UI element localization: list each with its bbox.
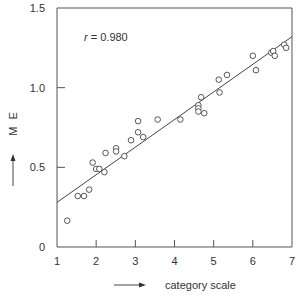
y-axis-label-group: M E bbox=[7, 110, 19, 186]
data-point bbox=[198, 94, 204, 100]
x-tick-label: 6 bbox=[250, 255, 256, 267]
data-point bbox=[135, 118, 141, 124]
data-point bbox=[113, 149, 119, 155]
x-tick-label: 2 bbox=[93, 255, 99, 267]
data-point bbox=[283, 45, 289, 51]
data-point bbox=[250, 53, 256, 59]
data-point bbox=[155, 117, 161, 123]
x-tick-label: 1 bbox=[54, 255, 60, 267]
data-point bbox=[135, 129, 141, 135]
data-point bbox=[178, 117, 184, 123]
right-arrow-icon bbox=[139, 283, 146, 288]
scatter-chart: 1234567 00.51.01.5 r = 0.980 M E categor… bbox=[0, 0, 304, 300]
x-axis-label-group: category scale bbox=[114, 279, 236, 291]
y-axis-label: M E bbox=[7, 110, 19, 136]
data-points bbox=[64, 42, 289, 224]
plot-frame bbox=[57, 8, 292, 247]
data-point bbox=[90, 160, 96, 166]
data-point bbox=[201, 110, 207, 116]
data-point bbox=[140, 134, 146, 140]
x-axis-label: category scale bbox=[165, 279, 236, 291]
up-arrow-icon bbox=[11, 154, 16, 161]
data-point bbox=[224, 72, 230, 78]
y-tick-label: 1.0 bbox=[30, 82, 45, 94]
r-value-text: = 0.980 bbox=[88, 31, 128, 43]
x-tick-label: 3 bbox=[132, 255, 138, 267]
data-point bbox=[75, 193, 81, 199]
data-point bbox=[102, 169, 108, 175]
data-point bbox=[217, 90, 223, 96]
data-point bbox=[272, 53, 278, 59]
data-point bbox=[196, 109, 202, 115]
x-tick-label: 5 bbox=[211, 255, 217, 267]
data-point bbox=[103, 150, 109, 156]
regression-line bbox=[57, 37, 292, 203]
data-point bbox=[128, 137, 134, 143]
x-tick-label: 4 bbox=[171, 255, 177, 267]
data-point bbox=[86, 187, 92, 193]
y-tick-label: 0.5 bbox=[30, 161, 45, 173]
data-point bbox=[216, 77, 222, 83]
x-axis-ticks: 1234567 bbox=[54, 240, 295, 267]
y-tick-label: 1.5 bbox=[30, 2, 45, 14]
y-axis-ticks: 00.51.01.5 bbox=[30, 2, 65, 253]
y-tick-label: 0 bbox=[39, 241, 45, 253]
data-point bbox=[253, 67, 259, 73]
correlation-annotation: r = 0.980 bbox=[84, 31, 128, 43]
data-point bbox=[122, 153, 128, 159]
data-point bbox=[64, 218, 70, 224]
data-point bbox=[81, 193, 87, 199]
data-point bbox=[97, 166, 103, 172]
x-tick-label: 7 bbox=[289, 255, 295, 267]
